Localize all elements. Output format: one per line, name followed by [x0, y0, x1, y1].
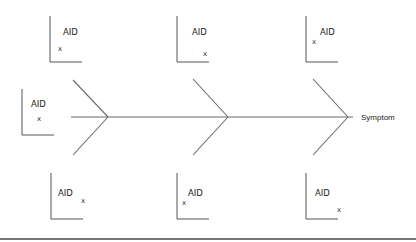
data-point-x-marker: x [312, 38, 316, 46]
data-point-x-marker: x [37, 115, 41, 123]
data-point-x-marker: x [81, 197, 85, 205]
plot-label: AID [31, 99, 46, 109]
cause-plot-bot-3: AIDx [306, 173, 341, 219]
cause-plot-mid-left: AIDx [22, 89, 54, 135]
bone-upper-1 [73, 80, 108, 117]
data-point-x-marker: x [58, 45, 62, 53]
cause-plot-bot-2: AIDx [177, 173, 209, 219]
bone-lower-1 [73, 117, 108, 155]
plot-label: AID [320, 27, 335, 37]
bone-upper-2 [193, 79, 228, 117]
effect-label-symptom: Symptom [361, 113, 395, 122]
cause-plot-top-3: AIDx [306, 16, 338, 62]
cause-plot-top-1: AIDx [50, 16, 82, 62]
plot-label: AID [192, 27, 207, 37]
cause-plot-top-2: AIDx [177, 16, 209, 62]
fishbone-diagram: AIDxAIDxAIDxAIDxAIDxAIDxAIDx Symptom [0, 0, 416, 242]
plot-label: AID [58, 188, 73, 198]
bone-upper-3 [313, 79, 348, 117]
bone-lower-3 [313, 117, 348, 155]
fishbone-structure [71, 79, 353, 155]
bone-lower-2 [193, 117, 228, 155]
data-point-x-marker: x [182, 199, 186, 207]
cause-plot-bot-1: AIDx [51, 173, 85, 219]
data-point-x-marker: x [203, 50, 207, 58]
plot-label: AID [315, 188, 330, 198]
plot-label: AID [188, 188, 203, 198]
data-point-x-marker: x [337, 206, 341, 214]
plot-label: AID [63, 27, 78, 37]
